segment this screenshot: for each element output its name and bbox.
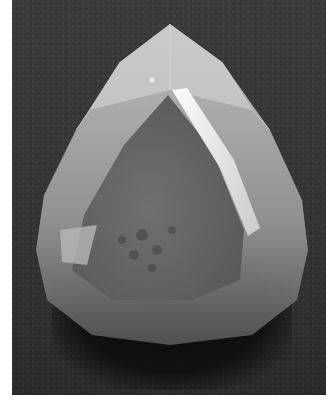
gemstone-illustration bbox=[12, 0, 326, 395]
gemstone-photo bbox=[12, 0, 326, 395]
